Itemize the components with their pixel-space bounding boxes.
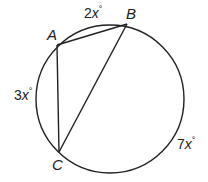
circle-diagram: A B C 2x° 3x° 7x° (0, 0, 208, 182)
point-label-a: A (46, 26, 57, 43)
chord-bc (59, 24, 127, 152)
point-label-b: B (126, 5, 136, 22)
chord-ac (57, 45, 59, 152)
point-label-c: C (52, 156, 63, 173)
arc-label-bc: 7x° (177, 135, 196, 152)
arc-label-ab: 2x° (84, 4, 103, 21)
arc-label-ac: 3x° (14, 86, 33, 103)
